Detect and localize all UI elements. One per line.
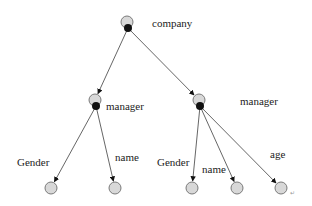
node-circle-icon bbox=[275, 182, 287, 194]
node-circle-icon bbox=[186, 182, 198, 194]
node-circle-icon bbox=[231, 182, 243, 194]
node-label-name1: name bbox=[115, 151, 139, 163]
paragraph-mark-icon: ↵ bbox=[290, 189, 295, 196]
edge-manager2-gender2 bbox=[193, 106, 200, 181]
node-label-manager1: manager bbox=[106, 100, 144, 112]
node-name2 bbox=[231, 182, 243, 194]
node-circle-icon bbox=[45, 182, 57, 194]
edge-manager1-name1 bbox=[96, 106, 113, 181]
node-circle-icon bbox=[109, 182, 121, 194]
tree-diagram: companymanagermanagerGendernameGendernam… bbox=[0, 0, 312, 206]
node-label-age: age bbox=[270, 148, 285, 160]
joint-dot-icon bbox=[92, 102, 100, 110]
node-manager2 bbox=[193, 94, 205, 110]
node-company bbox=[121, 16, 133, 32]
node-gender2 bbox=[186, 182, 198, 194]
edge-manager1-gender1 bbox=[54, 106, 96, 182]
node-label-manager2: manager bbox=[240, 95, 278, 107]
edge-company-manager2 bbox=[128, 28, 194, 95]
node-label-name2: name bbox=[202, 163, 226, 175]
joint-dot-icon bbox=[124, 24, 132, 32]
node-manager1 bbox=[89, 94, 101, 110]
node-label-gender2: Gender bbox=[157, 156, 190, 168]
node-label-gender1: Gender bbox=[17, 156, 50, 168]
node-gender1 bbox=[45, 182, 57, 194]
joint-dot-icon bbox=[196, 102, 204, 110]
node-name1 bbox=[109, 182, 121, 194]
node-label-company: company bbox=[152, 17, 193, 29]
node-age bbox=[275, 182, 287, 194]
edge-company-manager1 bbox=[98, 28, 128, 94]
